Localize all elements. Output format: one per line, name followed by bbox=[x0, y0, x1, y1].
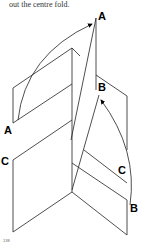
label-a-left: A bbox=[4, 124, 12, 136]
label-a-top: A bbox=[98, 10, 106, 22]
label-c-left: C bbox=[1, 155, 9, 167]
fold-diagram: A A B B C C bbox=[0, 0, 143, 245]
page-number: 138 bbox=[3, 238, 10, 243]
label-c-right: C bbox=[118, 164, 126, 176]
fold-line bbox=[71, 18, 96, 140]
label-b-bottom: B bbox=[130, 202, 138, 214]
label-b-top: B bbox=[98, 81, 106, 93]
